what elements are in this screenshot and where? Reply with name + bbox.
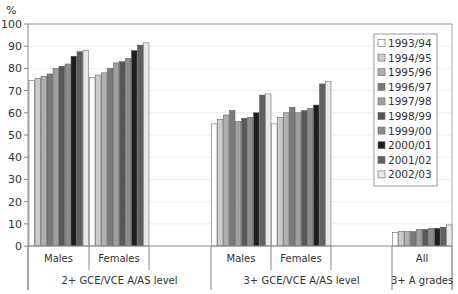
bar [308, 108, 314, 246]
legend-label: 1999/00 [388, 125, 432, 137]
legend-swatch [378, 98, 385, 105]
y-tick-label: 10 [8, 218, 22, 231]
bar [90, 77, 96, 246]
bar [102, 73, 108, 246]
legend-swatch [378, 40, 385, 47]
category-label: Males [44, 253, 73, 264]
bar [314, 105, 320, 246]
legend-swatch [378, 171, 385, 178]
bar [254, 113, 260, 246]
bar [218, 119, 224, 246]
bar [326, 82, 332, 246]
bar [423, 229, 429, 246]
legend-label: 1997/98 [388, 95, 432, 107]
legend-swatch [378, 113, 385, 120]
group-label: 3+ A grades [391, 275, 453, 286]
group-label: 3+ GCE/VCE A/AS level [243, 275, 359, 286]
legend-swatch [378, 83, 385, 90]
legend-label: 1998/99 [388, 110, 432, 122]
bar [447, 225, 453, 246]
legend-label: 1996/97 [388, 81, 432, 93]
y-tick-label: 70 [8, 85, 22, 98]
category-label: Males [227, 253, 256, 264]
bar [272, 124, 278, 246]
legend-label: 1995/96 [388, 66, 432, 78]
bar [126, 58, 132, 246]
bar [108, 68, 114, 246]
y-tick-label: 80 [8, 62, 22, 75]
y-tick-label: 60 [8, 107, 22, 120]
category-label: Females [98, 253, 139, 264]
y-tick-label: 0 [15, 240, 22, 253]
bar [242, 118, 248, 246]
legend-swatch [378, 127, 385, 134]
bar [96, 75, 102, 246]
y-tick-label: 50 [8, 129, 22, 142]
bar [138, 45, 144, 246]
bar [144, 43, 150, 246]
bar [260, 95, 266, 246]
bar [83, 51, 89, 246]
legend-label: 2002/03 [388, 168, 432, 180]
legend-label: 2000/01 [388, 139, 432, 151]
bar [284, 113, 290, 246]
legend-swatch [378, 156, 385, 163]
legend-swatch [378, 69, 385, 76]
bar [236, 122, 242, 246]
legend-label: 1994/95 [388, 52, 432, 64]
bar [278, 117, 284, 246]
legend-swatch [378, 54, 385, 61]
bar [59, 66, 65, 246]
category-label: All [416, 253, 428, 264]
bar [405, 232, 411, 246]
bar-chart: 0102030405060708090100 % MalesFemalesMal… [0, 0, 458, 294]
x-axis: MalesFemalesMalesFemalesAll2+ GCE/VCE A/… [28, 246, 453, 290]
bar [320, 84, 326, 246]
legend-label: 2001/02 [388, 154, 432, 166]
legend-swatch [378, 142, 385, 149]
bar [248, 117, 254, 246]
y-tick-label: 40 [8, 151, 22, 164]
bar [71, 56, 77, 246]
bar [120, 62, 126, 246]
bar [65, 64, 71, 246]
legend: 1993/941994/951995/961996/971997/981998/… [374, 34, 437, 186]
bar [290, 107, 296, 246]
bar [429, 228, 435, 246]
bar [441, 227, 447, 246]
bar [302, 111, 308, 246]
y-tick-label: 20 [8, 196, 22, 209]
bar [417, 229, 423, 246]
bar [53, 68, 59, 246]
bar [266, 94, 272, 246]
y-axis-label: % [6, 4, 16, 17]
bar [77, 52, 83, 246]
y-tick-label: 100 [1, 18, 22, 31]
bar [230, 111, 236, 246]
bar [224, 115, 230, 246]
bar [29, 81, 35, 246]
bar [212, 124, 218, 246]
y-tick-label: 90 [8, 40, 22, 53]
y-tick-label: 30 [8, 173, 22, 186]
bar [41, 76, 47, 246]
group-label: 2+ GCE/VCE A/AS level [61, 275, 177, 286]
bar [114, 63, 120, 246]
bar [296, 113, 302, 246]
bar [435, 228, 441, 246]
bar [132, 51, 138, 246]
legend-label: 1993/94 [388, 37, 432, 49]
bar [393, 233, 399, 246]
bar [47, 74, 53, 246]
bar [411, 232, 417, 246]
category-label: Females [280, 253, 321, 264]
bar [399, 232, 405, 246]
bar [35, 78, 41, 246]
